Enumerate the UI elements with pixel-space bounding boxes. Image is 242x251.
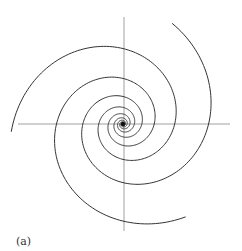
figure-caption: (a): [16, 235, 31, 248]
spiral-arm-1: [82, 23, 211, 184]
spiral-arm-2: [55, 77, 186, 224]
spiral-diagram: [0, 0, 242, 251]
spiral-center: [121, 122, 125, 126]
spiral-arm-3: [11, 46, 176, 160]
